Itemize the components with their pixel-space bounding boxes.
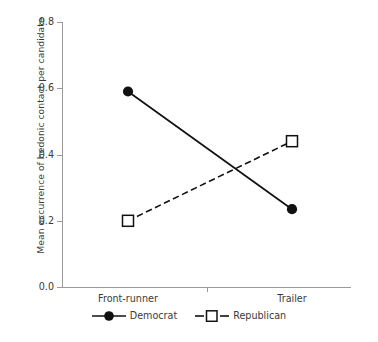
data-point-republican-front-runner [123, 215, 134, 226]
figure: Mean occurrence of hedonic contact per c… [0, 0, 378, 342]
legend-marker-republican [195, 310, 229, 322]
legend-item-republican: Republican [195, 310, 286, 322]
legend-label-republican: Republican [233, 311, 286, 321]
clipped-caption [0, 334, 378, 342]
legend-marker-democrat [92, 310, 126, 322]
data-point-republican-trailer [287, 136, 298, 147]
legend: Democrat Republican [0, 310, 378, 322]
plot-area [0, 0, 378, 342]
legend-label-democrat: Democrat [130, 311, 177, 321]
series-line-republican [128, 141, 292, 221]
data-point-democrat-front-runner [123, 86, 133, 96]
series-line-democrat [128, 92, 292, 210]
data-point-democrat-trailer [287, 204, 297, 214]
legend-item-democrat: Democrat [92, 310, 177, 322]
